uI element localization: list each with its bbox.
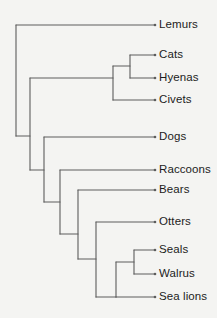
cladogram-figure: Lemurs Cats Hyenas Civets Dogs Raccoons … [0, 0, 217, 318]
tip-marker-seals [154, 249, 157, 252]
taxon-label-otters: Otters [159, 216, 191, 228]
taxon-label-lemurs: Lemurs [159, 19, 198, 31]
taxon-label-sea-lions: Sea lions [159, 291, 207, 303]
tip-marker-bears [154, 189, 157, 192]
taxon-label-cats: Cats [159, 49, 183, 61]
taxon-label-walrus: Walrus [159, 268, 195, 280]
taxon-label-seals: Seals [159, 244, 188, 256]
taxon-label-civets: Civets [159, 94, 192, 106]
tip-marker-walrus [154, 273, 157, 276]
tip-marker-sea-lions [154, 296, 157, 299]
taxon-label-dogs: Dogs [159, 131, 186, 143]
tip-marker-raccoons [154, 169, 157, 172]
taxon-label-hyenas: Hyenas [159, 72, 199, 84]
tip-marker-dogs [154, 136, 157, 139]
tip-marker-cats [154, 54, 157, 57]
tip-marker-civets [154, 99, 157, 102]
tip-marker-otters [154, 221, 157, 224]
tip-marker-hyenas [154, 77, 157, 80]
tip-marker-lemurs [154, 24, 157, 27]
taxon-label-raccoons: Raccoons [159, 164, 211, 176]
taxon-label-bears: Bears [159, 184, 190, 196]
